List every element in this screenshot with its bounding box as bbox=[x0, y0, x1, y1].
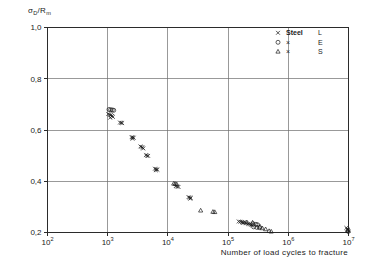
x-tick-label: 102 bbox=[41, 236, 53, 246]
y-tick-label: 0,2 bbox=[30, 228, 42, 237]
x-tick-label: 104 bbox=[162, 236, 174, 246]
y-axis-title: σD/Rm bbox=[28, 6, 51, 16]
x-tick-label: 105 bbox=[222, 236, 234, 246]
y-tick-label: 0,6 bbox=[30, 126, 42, 135]
legend-marker-triangle bbox=[276, 49, 280, 53]
legend-marker-circle bbox=[276, 40, 280, 44]
gridlines-group bbox=[48, 28, 349, 233]
legend-code-label: E bbox=[318, 39, 323, 46]
series-circle bbox=[107, 108, 350, 234]
y-tick-label: 1,0 bbox=[30, 23, 42, 32]
legend-material-label: × bbox=[286, 48, 290, 55]
chart-canvas: 102103104105106107 1,00,80,60,40,2 Steel… bbox=[0, 0, 371, 265]
legend-code-label: S bbox=[318, 48, 323, 55]
data-point-triangle bbox=[199, 208, 203, 212]
x-tick-label: 106 bbox=[282, 236, 294, 246]
legend-marker-cross bbox=[276, 31, 280, 35]
fatigue-sn-chart: 102103104105106107 1,00,80,60,40,2 Steel… bbox=[0, 0, 371, 265]
y-tick-label: 0,8 bbox=[30, 75, 42, 84]
legend-code-label: L bbox=[318, 29, 322, 36]
legend-material-label: Steel bbox=[286, 29, 303, 36]
x-tick-label: 103 bbox=[102, 236, 114, 246]
series-triangle bbox=[172, 181, 350, 233]
y-tick-label: 0,4 bbox=[30, 177, 42, 186]
axis-ticks-group bbox=[44, 28, 349, 237]
svg-text:Number of load cycles to fract: Number of load cycles to fracture bbox=[221, 248, 349, 257]
data-point-cross bbox=[111, 115, 115, 119]
chart-legend: SteelL×E×S bbox=[276, 29, 323, 55]
x-tick-label: 107 bbox=[342, 236, 354, 246]
legend-material-label: × bbox=[286, 39, 290, 46]
y-tick-labels-group: 1,00,80,60,40,2 bbox=[30, 23, 42, 237]
x-axis-title: Number of load cycles to fracture bbox=[221, 248, 349, 257]
svg-text:σD/Rm: σD/Rm bbox=[28, 6, 51, 16]
x-tick-labels-group: 102103104105106107 bbox=[41, 236, 354, 246]
